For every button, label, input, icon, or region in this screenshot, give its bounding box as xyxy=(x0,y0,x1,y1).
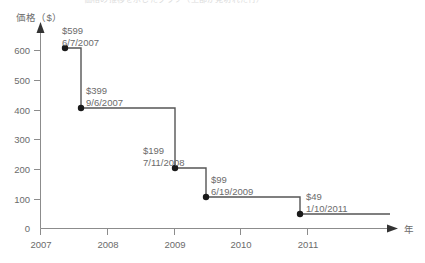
annotation-point-1: $599 6/7/2007 xyxy=(62,25,99,48)
annotation-point-5: $49 1/10/2011 xyxy=(306,191,348,214)
x-axis xyxy=(41,225,399,236)
annotation-price: $599 xyxy=(62,25,99,37)
x-tick-label-2011: 2011 xyxy=(288,239,328,250)
y-tick-label-500: 500 xyxy=(4,75,30,86)
annotation-price: $199 xyxy=(143,145,185,157)
annotation-date: 7/11/2008 xyxy=(143,157,185,169)
annotation-date: 1/10/2011 xyxy=(306,203,348,215)
y-tick-label-600: 600 xyxy=(4,45,30,56)
data-point-marker xyxy=(203,194,209,200)
x-axis-title: 年 xyxy=(404,222,414,236)
annotation-point-4: $99 6/19/2009 xyxy=(211,174,253,197)
annotation-date: 9/6/2007 xyxy=(86,97,123,109)
annotation-price: $399 xyxy=(86,85,123,97)
annotation-price: $49 xyxy=(306,191,348,203)
x-tick-label-2010: 2010 xyxy=(221,239,261,250)
data-point-marker xyxy=(297,211,303,217)
price-step-chart: 価格の推移を示したグラフ（上部が見切れた行） xyxy=(0,0,425,263)
y-axis-title: 価格（$） xyxy=(16,10,62,24)
y-axis xyxy=(34,22,45,229)
y-tick-label-200: 200 xyxy=(4,164,30,175)
x-tick-label-2008: 2008 xyxy=(88,239,128,250)
annotation-point-2: $399 9/6/2007 xyxy=(86,85,123,108)
annotation-price: $99 xyxy=(211,174,253,186)
data-point-markers xyxy=(62,45,303,217)
y-tick-label-400: 400 xyxy=(4,105,30,116)
y-tick-label-300: 300 xyxy=(4,134,30,145)
y-tick-label-0: 0 xyxy=(4,223,30,234)
annotation-date: 6/19/2009 xyxy=(211,186,253,198)
y-tick-label-100: 100 xyxy=(4,194,30,205)
data-point-marker xyxy=(78,105,84,111)
x-tick-label-2009: 2009 xyxy=(155,239,195,250)
annotation-point-3: $199 7/11/2008 xyxy=(143,145,185,168)
annotation-date: 6/7/2007 xyxy=(62,37,99,49)
x-tick-label-2007: 2007 xyxy=(21,239,61,250)
